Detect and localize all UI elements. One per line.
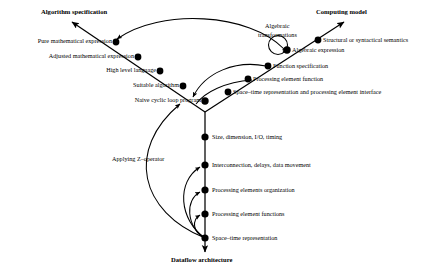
label-pure-mathematical-expression: Pure mathematical expression bbox=[6, 37, 112, 44]
label-algorithm-specification: Algorithm specification bbox=[41, 8, 107, 16]
node-algebraic-expression[interactable] bbox=[283, 46, 290, 53]
label-spacetime-representation-and-pe-interface: Space–time representation and processing… bbox=[233, 88, 381, 95]
node-processing-elements-organization[interactable] bbox=[201, 186, 208, 193]
node-function-specification[interactable] bbox=[265, 63, 272, 70]
label-computing-model: Computing model bbox=[316, 8, 367, 16]
annotation-algebraic-line1: Algebraic bbox=[265, 22, 289, 29]
node-spacetime-representation[interactable] bbox=[201, 234, 208, 241]
diagram-canvas: Algorithm specification Computing model … bbox=[0, 0, 433, 269]
annotation-algebraic-line2: transformations bbox=[258, 31, 297, 38]
label-processing-element-functions: Processing element functions bbox=[212, 210, 285, 217]
node-suitable-algorithm[interactable] bbox=[180, 83, 187, 90]
node-processing-element-functions[interactable] bbox=[201, 210, 208, 217]
node-structural-or-syntactical-semantics[interactable] bbox=[315, 37, 322, 44]
label-suitable-algorithm: Suitable algorithm bbox=[95, 81, 179, 88]
label-function-specification: Function specification bbox=[273, 62, 328, 69]
node-size-dimension-io-timing[interactable] bbox=[201, 133, 208, 140]
node-spacetime-representation-and-pe-interface[interactable] bbox=[225, 89, 232, 96]
label-high-level-language: High level language bbox=[66, 66, 156, 73]
label-processing-elements-organization: Processing elements organization bbox=[212, 186, 295, 193]
annotation-applying-z-operator: Applying Z–operator bbox=[112, 155, 164, 162]
label-structural-or-syntactical-semantics: Structural or syntactical semantics bbox=[323, 36, 408, 43]
node-adjusted-mathematical-expression[interactable] bbox=[135, 54, 142, 61]
label-naive-cyclic-loop-program: Naive cyclic loop program bbox=[88, 96, 201, 103]
label-size-dimension-io-timing: Size, dimension, I/O, timing bbox=[212, 133, 282, 140]
node-high-level-language[interactable] bbox=[157, 68, 164, 75]
label-interconnection-delays-data-movement: Interconnection, delays, data movement bbox=[212, 161, 311, 168]
feedback-arcs bbox=[117, 19, 284, 238]
node-pure-mathematical-expression[interactable] bbox=[113, 39, 120, 46]
label-processing-element-function: Processing element function bbox=[253, 75, 323, 82]
label-spacetime-representation: Space–time representation bbox=[212, 234, 277, 241]
label-algebraic-expression: Algebraic expression bbox=[292, 46, 344, 53]
node-interconnection-delays-data-movement[interactable] bbox=[201, 161, 208, 168]
label-adjusted-mathematical-expression: Adjusted mathematical expression bbox=[14, 52, 134, 59]
label-dataflow-architecture: Dataflow architecture bbox=[171, 256, 232, 264]
node-processing-element-function[interactable] bbox=[245, 76, 252, 83]
node-naive-cyclic-loop-program[interactable] bbox=[201, 97, 208, 104]
